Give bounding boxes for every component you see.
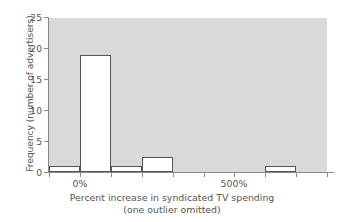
y-tick-label-10: 10 <box>24 106 42 115</box>
x-tick-mark-100 <box>111 173 112 177</box>
x-tick-mark-200 <box>142 173 143 177</box>
x-tick-mark-300 <box>173 173 174 177</box>
x-tick-mark-500 <box>234 173 235 177</box>
y-tick-mark-20 <box>44 48 49 49</box>
y-tick-label-0: 0 <box>24 168 42 177</box>
y-axis-line <box>48 17 49 173</box>
x-tick-mark-800 <box>327 173 328 177</box>
bar-bin-4 <box>142 157 173 172</box>
x-axis-line <box>44 172 334 173</box>
x-tick-label-0: 0% <box>50 178 110 189</box>
x-tick-mark-700 <box>296 173 297 177</box>
x-axis-title: Percent increase in syndicated TV spendi… <box>0 192 344 204</box>
bar-bin-2 <box>80 55 111 172</box>
histogram-chart: Frequency (number of advertisers) 25 20 … <box>0 0 344 222</box>
y-tick-mark-15 <box>44 79 49 80</box>
x-tick-label-500: 500% <box>204 178 264 189</box>
y-tick-mark-25 <box>44 17 49 18</box>
y-tick-label-20: 20 <box>24 44 42 53</box>
x-tick-mark-600 <box>265 173 266 177</box>
x-tick-mark-n100 <box>49 173 50 177</box>
y-tick-mark-10 <box>44 110 49 111</box>
x-axis-title-note: (one outlier omitted) <box>0 204 344 216</box>
y-tick-label-15: 15 <box>24 75 42 84</box>
x-tick-mark-400 <box>204 173 205 177</box>
x-tick-mark-0 <box>80 173 81 177</box>
y-axis-title: Frequency (number of advertisers) <box>24 4 35 184</box>
y-tick-label-5: 5 <box>24 137 42 146</box>
y-tick-label-25: 25 <box>24 13 42 22</box>
y-tick-mark-5 <box>44 141 49 142</box>
